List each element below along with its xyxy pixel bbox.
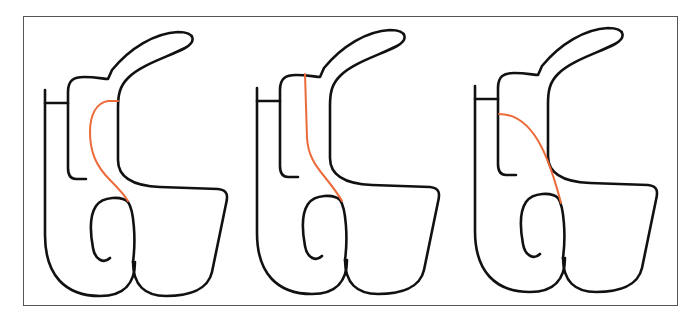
highlight-path-1 <box>90 101 128 201</box>
diagram-canvas <box>0 0 698 321</box>
panel-3 <box>475 28 657 292</box>
highlight-path-3 <box>499 114 561 203</box>
panel-2 <box>257 30 439 294</box>
panel-1 <box>45 32 227 296</box>
highlight-path-2 <box>305 74 342 201</box>
